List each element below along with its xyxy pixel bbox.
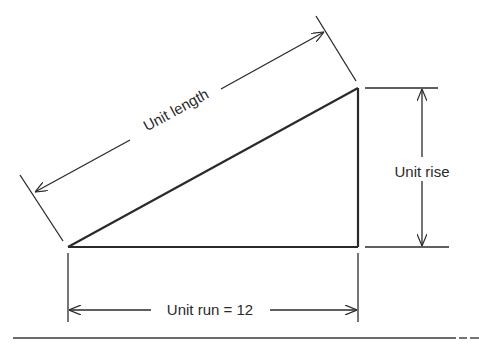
roof-slope-diagram: Unit length Unit rise Unit run = 12 [0, 0, 479, 352]
unit-length-dimension: Unit length [20, 16, 356, 241]
unit-rise-label: Unit rise [394, 163, 449, 180]
unit-run-label: Unit run = 12 [167, 301, 253, 318]
unit-length-arrow-left [35, 140, 130, 192]
unit-rise-dimension: Unit rise [365, 88, 450, 247]
unit-length-label: Unit length [140, 85, 211, 134]
triangle-hypotenuse [68, 88, 358, 247]
unit-length-arrow-right [221, 32, 324, 89]
unit-length-extension-left [20, 175, 63, 241]
triangle [68, 88, 358, 247]
unit-run-dimension: Unit run = 12 [68, 253, 358, 322]
unit-length-extension-right [316, 16, 356, 81]
